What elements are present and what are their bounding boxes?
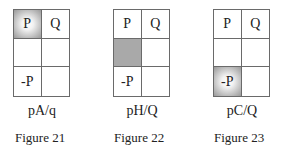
figure-23-label: Figure 23	[214, 130, 284, 146]
cell-empty	[142, 67, 170, 96]
figure-22-grid: P Q -P	[113, 9, 170, 97]
cell-not-p: -P	[214, 67, 242, 96]
cell-shaded	[114, 39, 142, 68]
cell-empty	[42, 67, 70, 96]
cell-p: P	[114, 10, 142, 39]
cell-q: Q	[242, 10, 270, 39]
cell-empty	[42, 39, 70, 68]
figure-21-grid: P Q -P	[13, 9, 70, 97]
cell-empty	[142, 39, 170, 68]
cell-empty	[214, 39, 242, 68]
figure-21-caption: pA/q	[13, 103, 71, 119]
cell-q: Q	[42, 10, 70, 39]
figure-22-label: Figure 22	[114, 130, 184, 146]
figure-21: P Q -P	[13, 9, 71, 97]
figure-23: P Q -P	[213, 9, 271, 97]
cell-empty	[14, 39, 42, 68]
cell-empty	[242, 67, 270, 96]
figure-22-caption: pH/Q	[113, 103, 171, 119]
cell-empty	[242, 39, 270, 68]
cell-p: P	[14, 10, 42, 39]
figure-23-grid: P Q -P	[213, 9, 270, 97]
figure-22: P Q -P	[113, 9, 171, 97]
figure-21-label: Figure 21	[15, 130, 85, 146]
cell-p: P	[214, 10, 242, 39]
cell-not-p: -P	[114, 67, 142, 96]
figure-23-caption: pC/Q	[213, 103, 271, 119]
cell-q: Q	[142, 10, 170, 39]
cell-not-p: -P	[14, 67, 42, 96]
